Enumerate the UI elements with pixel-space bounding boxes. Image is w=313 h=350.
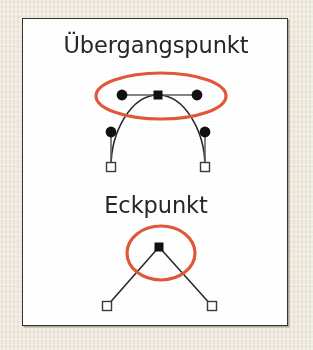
end-anchor-square-left bbox=[107, 163, 116, 172]
control-handle-dot-right bbox=[192, 90, 203, 101]
highlight-ellipse-corner bbox=[127, 226, 195, 280]
figure-panel-inner: Übergangspunkt Eckpunkt bbox=[23, 19, 289, 327]
bezier-diagram-svg bbox=[23, 19, 289, 327]
illustration-page: Übergangspunkt Eckpunkt bbox=[0, 0, 313, 350]
control-handle-dot-lower-left bbox=[106, 127, 117, 138]
corner-segment-right bbox=[159, 247, 212, 306]
control-handle-dot-lower-right bbox=[200, 127, 211, 138]
corner-end-anchor-square-left bbox=[103, 302, 112, 311]
end-anchor-square-right bbox=[201, 163, 210, 172]
control-handle-dot-left bbox=[117, 90, 128, 101]
figure-panel: Übergangspunkt Eckpunkt bbox=[22, 18, 288, 326]
curve-segment-left bbox=[111, 95, 158, 167]
curve-segment-right bbox=[158, 95, 205, 167]
corner-segment-left bbox=[107, 247, 159, 306]
corner-end-anchor-square-right bbox=[208, 302, 217, 311]
corner-anchor-square bbox=[155, 243, 164, 252]
diagram-transition-point bbox=[96, 73, 226, 172]
diagram-corner-point bbox=[103, 226, 217, 311]
smooth-anchor-square bbox=[154, 91, 163, 100]
